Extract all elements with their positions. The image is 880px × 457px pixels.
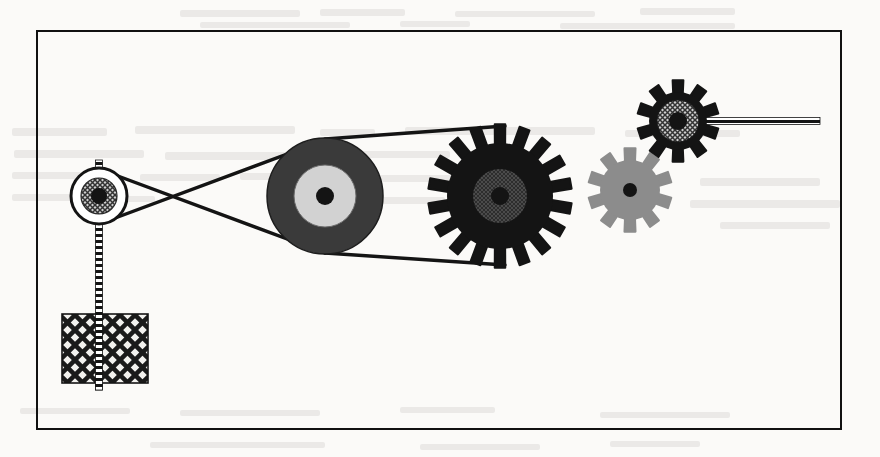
large-gear [428, 124, 571, 268]
top-output-gear [638, 80, 719, 161]
large-pulley [267, 138, 383, 254]
figure-page [0, 0, 880, 457]
hanging-weight [62, 314, 148, 383]
vertical-rod-through-weight [96, 314, 103, 390]
small-pulley [71, 168, 127, 224]
gray-idler-gear [589, 148, 672, 231]
mechanical-drive-diagram [0, 0, 880, 457]
